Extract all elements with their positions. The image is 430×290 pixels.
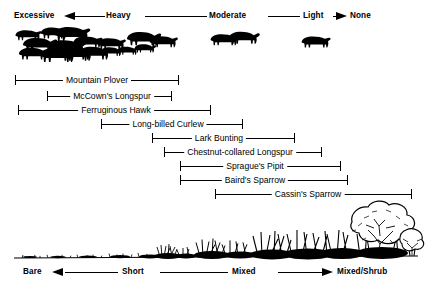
axis-segment-mixed-mixedshrub bbox=[278, 272, 322, 273]
range-cap-right bbox=[242, 119, 243, 129]
vegetation-structure-axis: Bare Short Mixed Mixed/Shrub bbox=[0, 265, 430, 279]
arrow-left-icon bbox=[64, 12, 75, 20]
species-row-long-billed-curlew: Long-billed Curlew bbox=[0, 117, 430, 131]
axis-segment-bare-short bbox=[65, 272, 118, 273]
vegetation-label-bare: Bare bbox=[23, 265, 42, 279]
species-row-bairds-sparrow: Baird's Sparrow bbox=[0, 173, 430, 187]
arrow-right-icon bbox=[336, 12, 347, 20]
species-row-lark-bunting: Lark Bunting bbox=[0, 131, 430, 145]
grass-and-shrub-profile-icon bbox=[0, 196, 430, 264]
axis-segment-moderate-light bbox=[268, 16, 300, 17]
grazing-intensity-axis: Excessive Heavy Moderate Light None bbox=[0, 9, 430, 23]
species-range-list: Mountain Plover McCown's Longspur Ferrug… bbox=[0, 70, 430, 198]
species-row-mccowns-longspur: McCown's Longspur bbox=[0, 89, 430, 103]
axis-segment-heavy-moderate bbox=[145, 16, 207, 17]
cattle-silhouette-herd-icon bbox=[0, 24, 430, 66]
grazing-label-none: None bbox=[350, 9, 371, 23]
grazing-label-excessive: Excessive bbox=[14, 9, 55, 23]
grazing-label-heavy: Heavy bbox=[106, 9, 131, 23]
range-cap-right bbox=[321, 147, 322, 157]
species-label: McCown's Longspur bbox=[70, 89, 154, 103]
range-cap-right bbox=[171, 91, 172, 101]
species-label: Lark Bunting bbox=[192, 131, 246, 145]
species-label: Ferruginous Hawk bbox=[78, 103, 154, 117]
species-row-spragues-pipit: Sprague's Pipit bbox=[0, 159, 430, 173]
grazing-label-light: Light bbox=[303, 9, 324, 23]
range-cap-right bbox=[178, 75, 179, 85]
range-cap-right bbox=[340, 161, 341, 171]
range-cap-right bbox=[294, 133, 295, 143]
species-label: Long-billed Curlew bbox=[129, 117, 206, 131]
species-label: Sprague's Pipit bbox=[223, 159, 287, 173]
range-cap-right bbox=[210, 105, 211, 115]
grazing-gradient-figure: Excessive Heavy Moderate Light None bbox=[0, 0, 430, 290]
vegetation-label-mixed: Mixed bbox=[232, 265, 256, 279]
range-cap-right bbox=[347, 175, 348, 185]
vegetation-label-mixed-shrub: Mixed/Shrub bbox=[337, 265, 387, 279]
species-row-ferruginous-hawk: Ferruginous Hawk bbox=[0, 103, 430, 117]
grazing-label-moderate: Moderate bbox=[209, 9, 246, 23]
species-row-chestnut-collared-longspur: Chestnut-collared Longspur bbox=[0, 145, 430, 159]
arrow-left-icon bbox=[52, 268, 63, 276]
axis-segment-short-mixed bbox=[160, 272, 228, 273]
species-label: Mountain Plover bbox=[63, 73, 131, 87]
species-label: Chestnut-collared Longspur bbox=[184, 145, 296, 159]
arrow-right-icon bbox=[322, 268, 333, 276]
species-label: Baird's Sparrow bbox=[222, 173, 288, 187]
species-row-mountain-plover: Mountain Plover bbox=[0, 73, 430, 87]
vegetation-label-short: Short bbox=[122, 265, 144, 279]
axis-segment-excessive-heavy bbox=[75, 16, 105, 17]
